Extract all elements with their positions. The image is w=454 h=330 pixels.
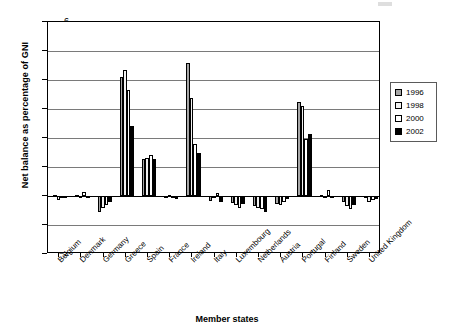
legend-item: 1998 (395, 99, 433, 112)
bar (212, 196, 216, 198)
bar-group (231, 22, 245, 254)
bar-group (98, 22, 112, 254)
legend-swatch-1996 (395, 89, 402, 96)
bar-group (320, 22, 334, 254)
bar-group (342, 22, 356, 254)
bar (64, 196, 68, 198)
y-axis-title: Net balance as percentage of GNI (20, 5, 30, 225)
legend-item: 1996 (395, 86, 433, 99)
scan-artifact (378, 2, 392, 6)
legend-swatch-2000 (395, 115, 402, 122)
legend-swatch-2002 (395, 128, 402, 135)
bar (286, 196, 290, 199)
bar-group (364, 22, 378, 254)
legend-label-1996: 1996 (406, 89, 424, 97)
bar-group (297, 22, 311, 254)
bar (153, 159, 157, 196)
bar (197, 153, 201, 197)
plot-area (47, 21, 380, 253)
bar (352, 196, 356, 205)
bar-group (209, 22, 223, 254)
legend-item: 2002 (395, 125, 433, 138)
legend-label-2002: 2002 (406, 128, 424, 136)
bar (86, 196, 90, 198)
bar (375, 196, 379, 199)
bar-group (75, 22, 89, 254)
bar-group (120, 22, 134, 254)
legend-swatch-1998 (395, 102, 402, 109)
bar (308, 134, 312, 196)
legend: 1996 1998 2000 2002 (390, 82, 437, 142)
legend-label-1998: 1998 (406, 102, 424, 110)
bar (219, 196, 223, 202)
bar (330, 196, 334, 198)
bar-group (53, 22, 67, 254)
bar (241, 196, 245, 204)
bar (79, 196, 83, 198)
x-axis-title: Member states (0, 314, 454, 324)
bar (264, 196, 268, 212)
bar-group (164, 22, 178, 254)
bar (108, 196, 112, 202)
bar-group (275, 22, 289, 254)
bar-group (253, 22, 267, 254)
bar (175, 196, 179, 199)
legend-item: 2000 (395, 112, 433, 125)
chart-figure: Net balance as percentage of GNI 6543210… (0, 0, 454, 330)
bar (130, 126, 134, 196)
bar-group (142, 22, 156, 254)
bar-group (186, 22, 200, 254)
bar (323, 196, 327, 198)
y-tick-mark (42, 253, 47, 254)
legend-label-2000: 2000 (406, 115, 424, 123)
